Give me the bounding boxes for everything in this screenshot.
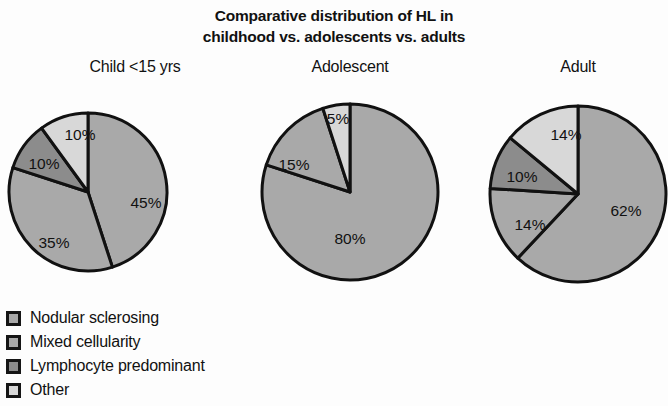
pie-chart-2: 80%15%5%	[260, 84, 440, 314]
legend-item-label: Other	[30, 381, 69, 399]
slice-label-3-2: 14%	[514, 216, 545, 233]
pie-heading-1: Child <15 yrs	[0, 58, 270, 76]
legend-item-label: Mixed cellularity	[30, 333, 140, 351]
legend-item: Mixed cellularity	[6, 330, 205, 354]
page-title: Comparative distribution of HL in childh…	[0, 5, 668, 47]
pie-heading-3: Adult	[488, 58, 668, 76]
legend-item: Nodular sclerosing	[6, 306, 205, 330]
legend: Nodular sclerosingMixed cellularityLymph…	[6, 306, 205, 402]
legend-item-label: Nodular sclerosing	[30, 309, 159, 327]
legend-swatch-icon	[6, 383, 21, 398]
legend-item: Other	[6, 378, 205, 402]
pie-heading-2: Adolescent	[260, 58, 440, 76]
legend-swatch-icon	[6, 335, 21, 350]
slice-label-2-3: 5%	[327, 110, 350, 127]
slice-label-3-1: 62%	[610, 202, 641, 219]
slice-label-2-2: 15%	[278, 156, 309, 173]
legend-swatch-icon	[6, 311, 21, 326]
chart-page: Comparative distribution of HL in childh…	[0, 0, 668, 406]
legend-swatch-icon	[6, 359, 21, 374]
pie-chart-3: 62%14%10%14%	[488, 84, 668, 314]
slice-label-1-4: 10%	[64, 126, 95, 143]
slice-label-2-1: 80%	[334, 230, 365, 247]
slice-label-3-4: 14%	[550, 126, 581, 143]
slice-label-3-3: 10%	[506, 168, 537, 185]
slice-label-1-1: 45%	[130, 194, 161, 211]
title-line-2: childhood vs. adolescents vs. adults	[0, 26, 668, 47]
pie-chart-1: 45%35%10%10%	[0, 84, 270, 314]
title-line-1: Comparative distribution of HL in	[0, 5, 668, 26]
slice-label-1-2: 35%	[38, 234, 69, 251]
slice-label-1-3: 10%	[28, 155, 59, 172]
legend-item-label: Lymphocyte predominant	[30, 357, 205, 375]
legend-item: Lymphocyte predominant	[6, 354, 205, 378]
